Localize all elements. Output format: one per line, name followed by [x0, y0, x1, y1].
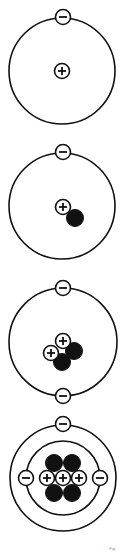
atom-1	[9, 10, 115, 125]
proton-icon	[56, 334, 71, 349]
proton-icon	[56, 200, 71, 215]
neutron-icon	[64, 485, 81, 502]
neutron-icon	[46, 485, 63, 502]
atom-4	[10, 417, 116, 532]
atom-models-diagram	[0, 0, 126, 553]
electron-icon	[19, 471, 34, 486]
proton-icon	[44, 346, 59, 361]
electron-icon	[56, 145, 71, 160]
electron-icon	[56, 10, 71, 25]
proton-icon	[56, 471, 71, 486]
electron-icon	[56, 389, 71, 404]
neutron-icon	[46, 455, 63, 472]
atom-2	[9, 145, 115, 260]
figure-caption: Fig.	[109, 546, 116, 551]
neutron-icon	[64, 455, 81, 472]
proton-icon	[72, 471, 87, 486]
electron-icon	[56, 417, 71, 432]
proton-icon	[40, 471, 55, 486]
electron-icon	[56, 281, 71, 296]
electron-icon	[93, 471, 108, 486]
atom-3	[9, 281, 117, 404]
proton-icon	[55, 64, 70, 79]
